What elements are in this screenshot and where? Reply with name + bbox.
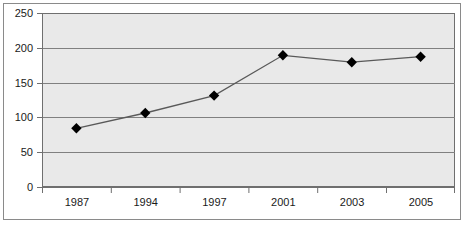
y-tick-label-100: 100 <box>4 112 33 123</box>
y-tick-label-0: 0 <box>4 182 33 193</box>
y-tick-label-150: 150 <box>4 78 33 89</box>
y-tick-label-50: 50 <box>4 147 33 158</box>
x-tick-label-1987: 1987 <box>47 197 107 208</box>
y-tick-label-250: 250 <box>4 8 33 19</box>
x-tick-label-1994: 1994 <box>116 197 176 208</box>
line-chart: 250 200 150 100 50 0 1987 1994 1997 2001… <box>0 0 465 225</box>
x-tick-label-2003: 2003 <box>322 197 382 208</box>
x-tick-label-2005: 2005 <box>391 197 451 208</box>
x-tick-label-1997: 1997 <box>185 197 245 208</box>
x-tick-label-2001: 2001 <box>253 197 313 208</box>
y-tick-label-200: 200 <box>4 43 33 54</box>
plot-area <box>42 13 455 187</box>
